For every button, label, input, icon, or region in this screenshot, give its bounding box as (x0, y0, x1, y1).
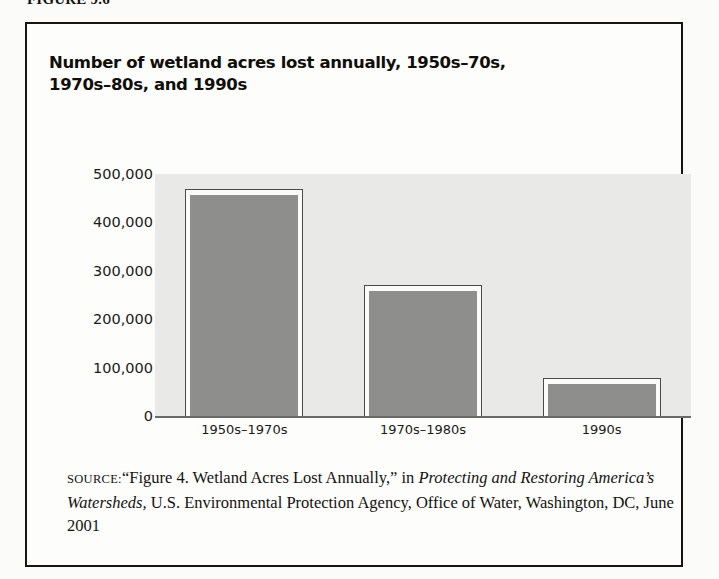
plot-area (155, 174, 691, 416)
source-note: Source:“Figure 4. Wetland Acres Lost Ann… (67, 466, 677, 537)
y-tick-label-200000: 200,000 (63, 311, 153, 327)
bar-1970s-1980s[interactable] (364, 285, 482, 416)
bar-1990s[interactable] (543, 378, 661, 416)
y-tick-label-0: 0 (63, 408, 153, 424)
bar-slot-1990s (512, 174, 691, 416)
source-keyword: Source: (67, 472, 122, 486)
x-tick-label-1990s: 1990s (512, 422, 691, 437)
y-tick-label-400000: 400,000 (63, 214, 153, 230)
bar-chart: 500,000 400,000 300,000 200,000 100,000 … (27, 128, 681, 428)
y-tick-label-300000: 300,000 (63, 263, 153, 279)
bar-fill (190, 195, 298, 416)
bar-slot-1970s-1980s (334, 174, 513, 416)
bar-fill (369, 291, 477, 416)
y-tick-label-100000: 100,000 (63, 360, 153, 376)
figure-frame: Number of wetland acres lost annually, 1… (25, 22, 683, 567)
x-axis-tick-labels: 1950s–1970s 1970s–1980s 1990s (155, 422, 691, 437)
source-text-part-2: U.S. Environmental Protection Agency, Of… (67, 493, 674, 535)
bar-1950s-1970s[interactable] (185, 189, 303, 416)
y-tick-label-500000: 500,000 (63, 166, 153, 182)
chart-title-line-2: 1970s–80s, and 1990s (49, 74, 609, 96)
y-axis-tick-labels: 500,000 400,000 300,000 200,000 100,000 … (63, 128, 153, 378)
chart-title-line-1: Number of wetland acres lost annually, 1… (49, 53, 506, 72)
source-text-part-1: “Figure 4. Wetland Acres Lost Annually,”… (122, 468, 419, 487)
x-tick-label-1970s-1980s: 1970s–1980s (334, 422, 513, 437)
bar-fill (548, 384, 656, 416)
chart-title: Number of wetland acres lost annually, 1… (49, 52, 609, 96)
bar-slot-1950s-1970s (155, 174, 334, 416)
figure-number-label: FIGURE 9.6 (27, 0, 110, 8)
x-tick-label-1950s-1970s: 1950s–1970s (155, 422, 334, 437)
bars-container (155, 174, 691, 416)
x-axis-line (155, 416, 691, 418)
